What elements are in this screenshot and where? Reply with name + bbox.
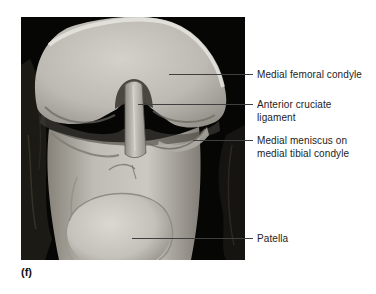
- label-medial-meniscus: Medial meniscus on medial tibial condyle: [257, 134, 349, 160]
- leader-line-patella: [132, 238, 253, 239]
- label-text: Patella: [257, 233, 288, 244]
- label-anterior-cruciate-ligament: Anterior cruciate ligament: [257, 98, 332, 124]
- figure-marker: (f): [21, 266, 32, 278]
- label-text: Medial femoral condyle: [257, 69, 362, 80]
- label-text-line2: medial tibial condyle: [257, 147, 349, 160]
- knee-photo-illustration: [21, 17, 245, 260]
- leader-line-medial-femoral-condyle: [169, 74, 253, 75]
- acl-shape: [125, 81, 146, 157]
- label-medial-femoral-condyle: Medial femoral condyle: [257, 68, 362, 81]
- leader-line-anterior-cruciate-ligament: [138, 104, 253, 105]
- leader-line-medial-meniscus: [193, 140, 253, 141]
- label-text-line1: Anterior cruciate: [257, 98, 332, 111]
- anatomy-figure: Medial femoral condyle Anterior cruciate…: [0, 0, 376, 294]
- label-text-line1: Medial meniscus on: [257, 134, 349, 147]
- label-patella: Patella: [257, 232, 288, 245]
- knee-photo: [21, 17, 245, 260]
- label-text-line2: ligament: [257, 111, 332, 124]
